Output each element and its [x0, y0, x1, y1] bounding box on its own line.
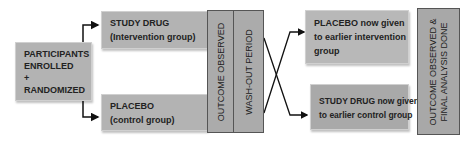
arrow-to-study-drug [83, 25, 98, 42]
randomized-label: RANDOMIZED [24, 84, 85, 97]
arrow-cross-to-placebo-now [264, 32, 304, 113]
washout-period-label: WASH-OUT PERIOD [243, 29, 254, 115]
participants-enrolled-box: PARTICIPANTS ENROLLED + RANDOMIZED [15, 42, 92, 101]
placebo-now-line1: PLACEBO now given [314, 17, 405, 30]
placebo-now-line2: to earlier intervention [314, 31, 406, 44]
study-drug-label: STUDY DRUG [110, 17, 169, 30]
arrow-to-placebo [83, 100, 98, 117]
control-group-label: (control group) [110, 114, 175, 127]
study-drug-now-given-box: STUDY DRUG now given to earlier control … [310, 84, 409, 130]
placebo-box: PLACEBO (control group) [101, 94, 208, 131]
final-line2: FINAL ANALYSIS DONE [439, 18, 450, 125]
study-drug-now-line2: to earlier control group [319, 109, 413, 122]
final-analysis-label: OUTCOME OBSERVED & FINAL ANALYSIS DONE [428, 18, 450, 125]
study-drug-now-line1: STUDY DRUG now given [319, 95, 419, 108]
outcome-observed-column: OUTCOME OBSERVED [207, 10, 234, 133]
enrolled-label: ENROLLED [24, 60, 74, 73]
intervention-group-label: (Intervention group) [110, 31, 196, 44]
study-drug-box: STUDY DRUG (Intervention group) [101, 11, 208, 49]
placebo-label: PLACEBO [110, 100, 154, 113]
final-line1: OUTCOME OBSERVED & [428, 18, 439, 125]
outcome-observed-label: OUTCOME OBSERVED [215, 22, 226, 120]
final-analysis-column: OUTCOME OBSERVED & FINAL ANALYSIS DONE [417, 8, 460, 135]
washout-period-column: WASH-OUT PERIOD [233, 10, 264, 133]
placebo-now-given-box: PLACEBO now given to earlier interventio… [305, 10, 409, 64]
placebo-now-line3: group [314, 45, 340, 58]
arrow-cross-to-study-drug-now [264, 38, 307, 115]
